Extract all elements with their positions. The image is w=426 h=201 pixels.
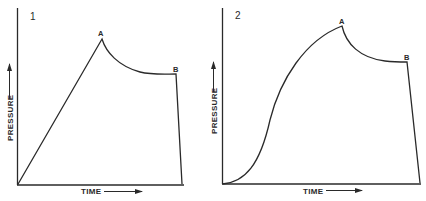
figure: 1 A B PRESSURE TIME 2 A B PRESSURE TIME [0, 0, 426, 201]
x-axis-title: TIME [81, 187, 102, 196]
y-axis-title: PRESSURE [210, 87, 219, 134]
pressure-curve [18, 39, 183, 185]
chart-panel-2: 2 A B PRESSURE TIME [210, 8, 422, 196]
pressure-curve [223, 26, 421, 184]
point-a-label: A [339, 17, 345, 26]
panel-number: 2 [235, 10, 241, 21]
point-b-label: B [404, 53, 410, 62]
point-a-label: A [98, 29, 104, 38]
y-axis-title: PRESSURE [6, 94, 15, 141]
chart-panel-1: 1 A B PRESSURE TIME [6, 8, 185, 196]
panel-number: 1 [30, 11, 36, 22]
point-b-label: B [173, 65, 179, 74]
x-axis-title: TIME [303, 187, 324, 196]
